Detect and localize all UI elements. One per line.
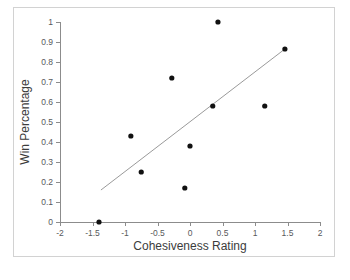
y-tick-label: 1 [48, 17, 53, 27]
y-tick-label: 0.3 [41, 157, 53, 167]
y-tick-label: 0.8 [41, 57, 53, 67]
data-point [187, 143, 192, 148]
y-axis-title: Win Percentage [18, 79, 32, 165]
data-points-group [96, 19, 287, 224]
x-tick-label: -1.5 [85, 228, 100, 238]
x-tick-label: -2 [56, 228, 64, 238]
x-tick-label: 2 [318, 228, 323, 238]
chart-figure: 00.10.20.30.40.50.60.70.80.91 -2-1.5-1-0… [0, 0, 350, 280]
x-tick-label: 1 [253, 228, 258, 238]
x-tick-label: 0 [188, 228, 193, 238]
trendline [101, 49, 285, 190]
y-tick-label: 0 [48, 217, 53, 227]
data-point [282, 46, 287, 51]
data-point [210, 103, 215, 108]
y-tick-label: 0.9 [41, 37, 53, 47]
x-tick-label: -0.5 [150, 228, 165, 238]
y-tick-label: 0.1 [41, 197, 53, 207]
y-axis-ticks: 00.10.20.30.40.50.60.70.80.91 [41, 17, 60, 227]
data-point [182, 185, 187, 190]
x-axis-title: Cohesiveness Rating [133, 239, 246, 253]
x-axis-ticks: -2-1.5-1-0.500.511.52 [56, 222, 322, 238]
data-point [169, 75, 174, 80]
data-point [128, 133, 133, 138]
x-tick-label: 1.5 [282, 228, 294, 238]
data-point [139, 169, 144, 174]
scatter-plot: 00.10.20.30.40.50.60.70.80.91 -2-1.5-1-0… [0, 0, 350, 280]
data-point [96, 219, 101, 224]
x-tick-label: 0.5 [217, 228, 229, 238]
y-tick-label: 0.2 [41, 177, 53, 187]
y-tick-label: 0.7 [41, 77, 53, 87]
y-tick-label: 0.6 [41, 97, 53, 107]
y-tick-label: 0.5 [41, 117, 53, 127]
y-tick-label: 0.4 [41, 137, 53, 147]
x-tick-label: -1 [121, 228, 129, 238]
data-point [262, 103, 267, 108]
trendline-group [101, 49, 285, 190]
data-point [215, 19, 220, 24]
